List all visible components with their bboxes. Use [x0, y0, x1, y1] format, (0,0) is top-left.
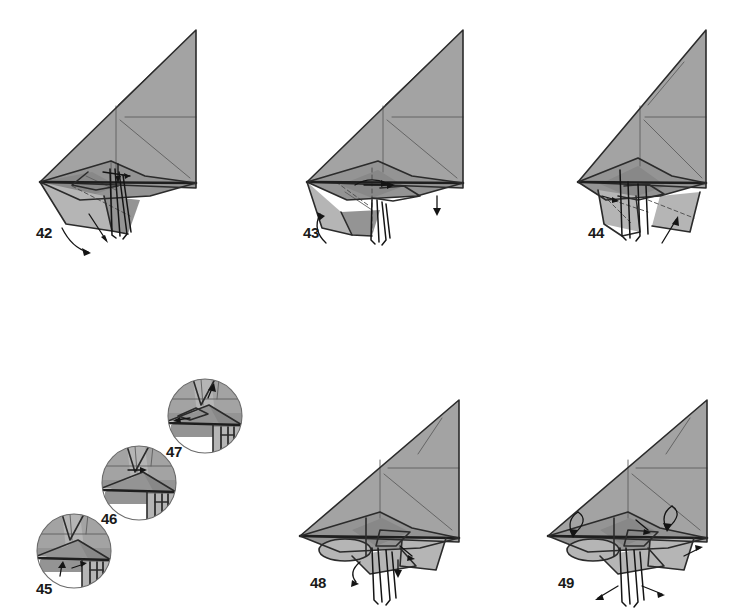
step-label-49: 49 [558, 574, 574, 591]
step-label-47: 47 [166, 443, 182, 460]
baseline-44 [578, 182, 706, 183]
step-label-43: 43 [303, 224, 319, 241]
origami-diagram-sheet: 42 [0, 0, 747, 613]
step-label-45: 45 [36, 580, 52, 597]
step-label-44: 44 [588, 224, 605, 241]
step-label-46: 46 [101, 510, 117, 527]
step-label-48: 48 [310, 574, 326, 591]
step-label-42: 42 [36, 224, 52, 241]
